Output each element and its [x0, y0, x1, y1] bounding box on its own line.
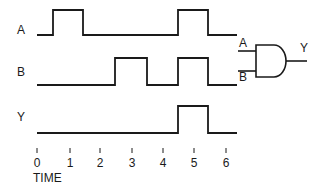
and-gate-icon	[238, 45, 307, 77]
time-tick-label: 1	[67, 157, 74, 169]
time-tick-label: 6	[223, 157, 230, 169]
time-axis-label: TIME	[33, 172, 62, 184]
gate-input-a-label: A	[239, 37, 247, 49]
timing-diagram	[0, 0, 316, 193]
signal-label-a: A	[17, 24, 25, 36]
gate-output-label: Y	[300, 42, 308, 54]
waveform-a	[37, 10, 237, 35]
time-ticks	[37, 148, 226, 153]
time-tick-label: 3	[129, 157, 136, 169]
time-tick-label: 5	[191, 157, 198, 169]
gate-input-b-label: B	[239, 71, 247, 83]
waveforms	[37, 10, 237, 133]
signal-label-y: Y	[17, 111, 25, 123]
signal-label-b: B	[17, 66, 25, 78]
and-gate-body	[256, 45, 286, 77]
time-tick-label: 0	[34, 157, 41, 169]
time-tick-label: 2	[97, 157, 104, 169]
waveform-b	[37, 58, 237, 85]
waveform-y	[37, 106, 237, 133]
time-tick-label: 4	[160, 157, 167, 169]
